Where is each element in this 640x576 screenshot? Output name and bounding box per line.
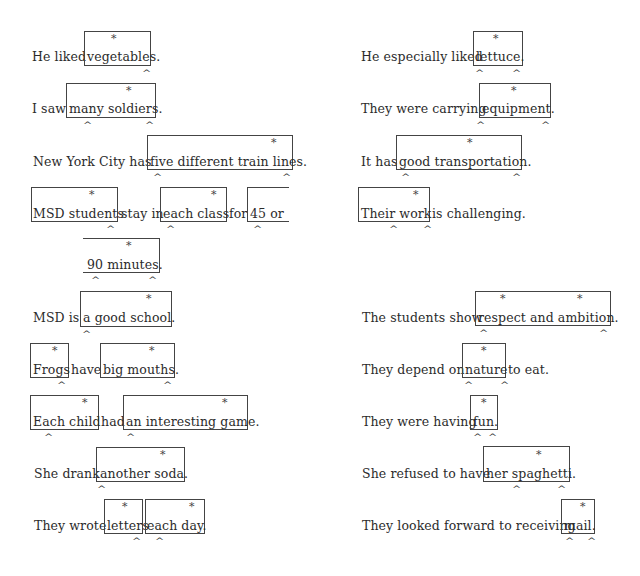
boundary-marker: ^: [148, 277, 157, 285]
boundary-marker: ^: [389, 226, 398, 234]
noun-phrase-text: each day.: [147, 518, 207, 533]
sentence-text: They depend on: [362, 362, 465, 377]
head-marker: *: [577, 294, 583, 304]
boundary-marker: ^: [565, 538, 574, 546]
boundary-marker: ^: [599, 330, 608, 338]
noun-phrase-text: each class: [163, 206, 229, 221]
head-marker: *: [89, 190, 95, 200]
sentence-text: She refused to have: [362, 466, 490, 481]
head-marker: *: [111, 34, 117, 44]
head-marker: *: [126, 241, 132, 251]
boundary-marker: ^: [91, 277, 100, 285]
boundary-marker: ^: [145, 122, 154, 130]
head-marker: *: [149, 346, 155, 356]
boundary-marker: ^: [132, 538, 141, 546]
head-marker: *: [536, 450, 542, 460]
boundary-marker: ^: [512, 486, 521, 494]
boundary-marker: ^: [488, 434, 497, 442]
boundary-marker: ^: [500, 382, 509, 390]
boundary-marker: ^: [423, 226, 432, 234]
noun-phrase-text: Their work: [361, 206, 432, 221]
boundary-marker: ^: [166, 226, 175, 234]
sentence-text: It has: [361, 154, 397, 169]
head-marker: *: [413, 190, 419, 200]
noun-phrase-text: another soda.: [100, 466, 188, 481]
boundary-marker: ^: [587, 538, 596, 546]
noun-phrase-text: equipment.: [482, 101, 555, 116]
sentence-text: for: [229, 206, 247, 221]
sentence-text: They were carrying: [361, 101, 487, 116]
head-marker: *: [146, 294, 152, 304]
sentence-text: He especially liked: [361, 49, 483, 64]
head-marker: *: [122, 502, 128, 512]
boundary-marker: ^: [44, 434, 53, 442]
sentence-text: They looked forward to receiving: [362, 518, 576, 533]
boundary-marker: ^: [142, 70, 151, 78]
boundary-marker: ^: [512, 174, 521, 182]
noun-phrase-text: Each child: [33, 414, 101, 429]
boundary-marker: ^: [557, 486, 566, 494]
noun-phrase-text: 45 or: [250, 206, 284, 221]
sentence-text: stay in: [121, 206, 164, 221]
noun-phrase-text: five different train lines.: [150, 154, 307, 169]
head-marker: *: [467, 138, 473, 148]
head-marker: *: [82, 398, 88, 408]
boundary-marker: ^: [57, 382, 66, 390]
boundary-marker: ^: [126, 434, 135, 442]
noun-phrase-text: big mouths.: [103, 362, 179, 377]
noun-phrase-text: a good school.: [83, 310, 175, 325]
noun-phrase-text: lettuce.: [476, 49, 525, 64]
noun-phrase-text: an interesting game.: [126, 414, 259, 429]
noun-phrase-text: respect and ambition.: [478, 310, 619, 325]
boundary-marker: ^: [473, 434, 482, 442]
boundary-marker: ^: [401, 174, 410, 182]
noun-phrase-text: fun.: [473, 414, 498, 429]
sentence-text: The students show: [362, 310, 483, 325]
sentence-text: New York City has: [33, 154, 151, 169]
sentence-text: MSD is: [33, 310, 79, 325]
sentence-text: have: [71, 362, 101, 377]
boundary-marker: ^: [153, 174, 162, 182]
sentence-text: He liked: [32, 49, 86, 64]
boundary-marker: ^: [106, 226, 115, 234]
head-marker: *: [500, 294, 506, 304]
boundary-marker: ^: [464, 382, 473, 390]
noun-phrase-text: MSD students: [33, 206, 124, 221]
head-marker: *: [481, 398, 487, 408]
boundary-marker: ^: [82, 331, 91, 339]
boundary-marker: ^: [253, 226, 262, 234]
noun-phrase-text: Frogs: [33, 362, 70, 377]
boundary-marker: ^: [512, 70, 521, 78]
head-marker: *: [211, 190, 217, 200]
boundary-marker: ^: [541, 122, 550, 130]
noun-phrase-text: vegetables.: [87, 49, 160, 64]
sentence-text: to eat.: [508, 362, 549, 377]
sentence-text: had: [101, 414, 125, 429]
boundary-marker: ^: [83, 122, 92, 130]
head-marker: *: [481, 346, 487, 356]
boundary-marker: ^: [475, 70, 484, 78]
boundary-marker: ^: [479, 330, 488, 338]
noun-phrase-text: good transportation.: [399, 154, 532, 169]
head-marker: *: [493, 34, 499, 44]
sentence-text: I saw: [32, 101, 66, 116]
boundary-marker: ^: [163, 382, 172, 390]
noun-phrase-text: many soldiers.: [69, 101, 163, 116]
noun-phrase-text: her spaghetti.: [486, 466, 576, 481]
head-marker: *: [160, 450, 166, 460]
noun-phrase-text: mail.: [564, 518, 596, 533]
head-marker: *: [580, 502, 586, 512]
sentence-text: She drank: [34, 466, 100, 481]
noun-phrase-text: letters: [107, 518, 149, 533]
noun-phrase-text: nature: [465, 362, 508, 377]
head-marker: *: [189, 502, 195, 512]
boundary-marker: ^: [282, 174, 291, 182]
noun-phrase-text: 90 minutes.: [87, 257, 163, 272]
boundary-marker: ^: [97, 486, 106, 494]
sentence-text: They wrote: [34, 518, 106, 533]
head-marker: *: [52, 346, 58, 356]
head-marker: *: [271, 138, 277, 148]
head-marker: *: [126, 86, 132, 96]
sentence-text: They were having: [362, 414, 476, 429]
boundary-marker: ^: [155, 538, 164, 546]
